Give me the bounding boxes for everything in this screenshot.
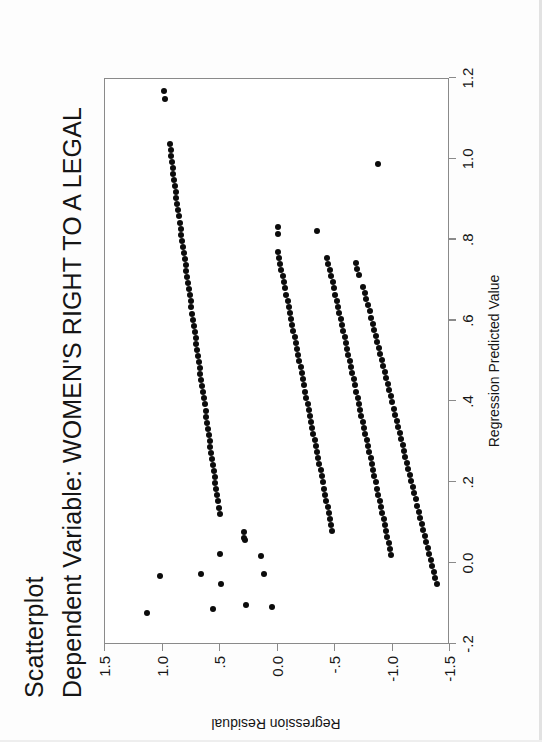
data-point bbox=[417, 515, 423, 521]
data-point bbox=[389, 399, 395, 405]
data-point bbox=[422, 533, 428, 539]
data-point bbox=[193, 335, 199, 341]
data-point bbox=[178, 226, 184, 232]
data-point bbox=[373, 480, 379, 486]
data-point bbox=[355, 395, 361, 401]
data-point bbox=[198, 571, 204, 577]
data-point bbox=[373, 333, 379, 339]
data-point bbox=[215, 499, 221, 505]
data-point bbox=[395, 424, 401, 430]
data-point bbox=[202, 401, 208, 407]
y-axis-tick bbox=[392, 644, 393, 651]
data-point bbox=[378, 504, 384, 510]
y-axis-tick-label: .5 bbox=[211, 656, 228, 669]
y-axis-tick-label: -1.0 bbox=[383, 656, 400, 682]
data-point bbox=[423, 539, 429, 545]
data-point bbox=[323, 498, 329, 504]
data-point bbox=[190, 317, 196, 323]
data-point bbox=[177, 220, 183, 226]
data-point bbox=[167, 141, 173, 147]
x-axis-tick-label: .2 bbox=[459, 476, 476, 489]
x-axis-tick bbox=[449, 238, 456, 239]
x-axis-tick bbox=[449, 319, 456, 320]
data-point bbox=[340, 328, 346, 334]
data-point bbox=[379, 510, 385, 516]
data-point bbox=[335, 304, 341, 310]
y-axis-tick-label: 1.0 bbox=[153, 656, 170, 677]
data-point bbox=[325, 504, 331, 510]
data-point bbox=[144, 610, 150, 616]
data-point bbox=[352, 382, 358, 388]
x-axis-tick-label: 1.2 bbox=[459, 68, 476, 89]
x-axis-tick-label: .6 bbox=[459, 314, 476, 327]
y-axis-tick bbox=[334, 644, 335, 651]
data-point bbox=[400, 442, 406, 448]
data-point bbox=[301, 382, 307, 388]
x-axis-tick-label: 1.0 bbox=[459, 148, 476, 169]
data-point bbox=[180, 244, 186, 250]
data-point bbox=[367, 309, 373, 315]
data-point bbox=[392, 412, 398, 418]
x-axis-tick-label: .8 bbox=[459, 233, 476, 246]
data-point bbox=[275, 231, 281, 237]
y-axis-tick bbox=[162, 644, 163, 651]
x-axis-tick-label: .4 bbox=[459, 395, 476, 408]
plot-frame bbox=[104, 78, 449, 644]
chart-subtitle: Dependent Variable: WOMEN'S RIGHT TO A L… bbox=[58, 107, 87, 698]
data-point bbox=[203, 408, 209, 414]
chart-canvas: Scatterplot Dependent Variable: WOMEN'S … bbox=[0, 0, 542, 742]
y-axis-tick-label: -.5 bbox=[326, 656, 343, 674]
data-point bbox=[306, 407, 312, 413]
data-point bbox=[169, 159, 175, 165]
data-point bbox=[371, 327, 377, 333]
x-axis-tick bbox=[449, 77, 456, 78]
data-point bbox=[303, 395, 309, 401]
data-point bbox=[205, 426, 211, 432]
data-point bbox=[420, 527, 426, 533]
data-point bbox=[391, 406, 397, 412]
data-point bbox=[375, 161, 381, 167]
data-point bbox=[204, 420, 210, 426]
data-point bbox=[336, 310, 342, 316]
data-point bbox=[360, 419, 366, 425]
data-point bbox=[282, 285, 288, 291]
data-point bbox=[161, 88, 167, 94]
x-axis-tick bbox=[449, 481, 456, 482]
data-point bbox=[377, 498, 383, 504]
x-axis-tick bbox=[449, 158, 456, 159]
data-point bbox=[397, 430, 403, 436]
data-point bbox=[290, 328, 296, 334]
data-point bbox=[217, 551, 223, 557]
data-point bbox=[357, 407, 363, 413]
data-point bbox=[321, 486, 327, 492]
x-axis-tick bbox=[449, 400, 456, 401]
y-axis-tick-label: 1.5 bbox=[96, 656, 113, 677]
data-point bbox=[308, 419, 314, 425]
data-point bbox=[398, 436, 404, 442]
y-axis-tick-label: -1.5 bbox=[441, 656, 458, 682]
y-axis-tick bbox=[277, 644, 278, 651]
y-axis-tick bbox=[219, 644, 220, 651]
data-point bbox=[207, 438, 213, 444]
data-point bbox=[353, 389, 359, 395]
data-point bbox=[179, 238, 185, 244]
data-point bbox=[285, 298, 291, 304]
data-point bbox=[178, 232, 184, 238]
data-point bbox=[356, 272, 362, 278]
data-point bbox=[283, 292, 289, 298]
data-point bbox=[414, 503, 420, 509]
data-point bbox=[320, 480, 326, 486]
data-point bbox=[307, 413, 313, 419]
data-point bbox=[358, 413, 364, 419]
data-point bbox=[217, 511, 223, 517]
data-point bbox=[218, 581, 224, 587]
data-point bbox=[370, 321, 376, 327]
data-point bbox=[376, 345, 382, 351]
data-point bbox=[192, 329, 198, 335]
data-point bbox=[181, 250, 187, 256]
data-point bbox=[210, 606, 216, 612]
data-point bbox=[243, 602, 249, 608]
x-axis-tick-label: -.2 bbox=[459, 635, 476, 653]
data-point bbox=[305, 401, 311, 407]
data-point bbox=[193, 341, 199, 347]
